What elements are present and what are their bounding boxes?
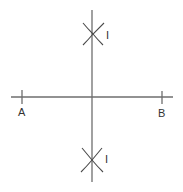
point-b-label: B xyxy=(158,108,165,119)
point-a-label: A xyxy=(18,107,25,118)
top-arc-intersection xyxy=(83,23,104,45)
diagram-canvas: A B I I xyxy=(0,0,183,192)
bottom-intersection-label: I xyxy=(105,154,108,165)
construction-drawing xyxy=(0,0,183,192)
top-intersection-label: I xyxy=(106,30,109,41)
